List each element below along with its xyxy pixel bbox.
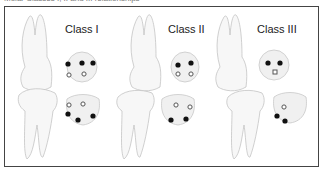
contact-point-open	[176, 72, 180, 76]
contact-point-filled	[274, 113, 279, 118]
panel-class-1: Class I	[5, 7, 110, 166]
contact-point-open	[82, 72, 86, 76]
contact-point-filled	[175, 62, 180, 67]
figure-caption: Molar Classes I, II and III relationship…	[0, 0, 323, 3]
upper-crown-occlusal	[259, 50, 289, 80]
class-label: Class I	[65, 23, 99, 35]
contact-point-open	[188, 105, 192, 109]
contact-point-filled	[65, 111, 70, 116]
contact-point-filled	[75, 117, 80, 122]
diagram-frame: Class I Class II	[4, 6, 319, 167]
contact-point-filled	[282, 118, 287, 123]
contact-point-filled	[277, 60, 282, 65]
contact-point-open	[67, 103, 71, 107]
contact-point-open	[189, 72, 193, 76]
contact-point-filled	[90, 113, 95, 118]
contact-point-open	[174, 103, 178, 107]
lower-crown-occlusal	[274, 93, 307, 124]
contact-point-filled	[183, 116, 188, 121]
contact-point-open	[273, 70, 277, 74]
contact-point-filled	[188, 60, 193, 65]
contact-point-filled	[168, 117, 173, 122]
contact-point-open	[67, 73, 71, 77]
contact-point-filled	[65, 61, 70, 66]
lower-crown-occlusal	[162, 95, 195, 126]
contact-point-filled	[79, 60, 84, 65]
class-label: Class II	[168, 23, 205, 35]
contact-point-open	[81, 102, 85, 106]
contact-point-filled	[265, 60, 270, 65]
upper-crown-occlusal	[67, 52, 97, 82]
contact-point-filled	[90, 60, 95, 65]
contact-point-open	[282, 105, 286, 109]
panel-class-3: Class III	[214, 7, 319, 166]
lower-crown-occlusal	[67, 95, 100, 126]
panel-class-2: Class II	[110, 7, 215, 166]
class-label: Class III	[257, 23, 297, 35]
upper-crown-occlusal	[171, 52, 199, 82]
